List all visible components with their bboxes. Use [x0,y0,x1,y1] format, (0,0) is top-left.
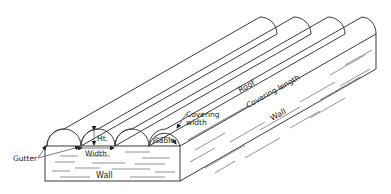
gable-annotation: Gable [152,136,176,145]
diagram-canvas: Ht. Width Gable Gutter Covering width Ro… [0,0,391,194]
gable-label: Gable [153,136,175,145]
height-label: Ht. [97,134,108,143]
width-label: Width [85,149,107,158]
gutter-label: Gutter [13,154,38,163]
covering-length-label: Covering length [245,73,302,110]
front-wall-label: Wall [96,171,113,180]
covering-width-label-line2: width [186,118,207,127]
side-wall [180,34,376,181]
side-wall-label: Wall [269,107,288,123]
gutter-annotation: Gutter [13,146,79,163]
greenhouse-diagram: Ht. Width Gable Gutter Covering width Ro… [0,0,391,194]
roof-label: Roof [237,78,257,95]
width-dimension: Width [82,148,114,158]
